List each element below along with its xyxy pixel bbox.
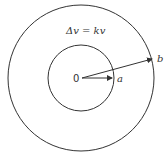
center-label: 0 (73, 73, 79, 84)
inner-radius-label: a (117, 73, 123, 84)
outer-radius-label: b (157, 53, 163, 64)
concentric-circles-diagram: 0 a b Δv = kv (0, 0, 164, 160)
equation-label: Δv = kv (65, 25, 106, 36)
